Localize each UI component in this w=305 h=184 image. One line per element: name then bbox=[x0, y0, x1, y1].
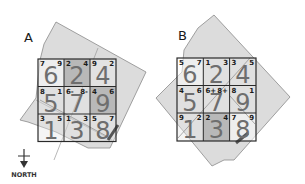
north-compass: NORTH bbox=[11, 149, 37, 179]
north-arrow-icon bbox=[18, 149, 30, 168]
svg-text:2: 2 bbox=[69, 62, 84, 90]
panel-b-label: B bbox=[178, 28, 187, 43]
panel-b: B 5 7 6 bbox=[156, 15, 290, 166]
north-label: NORTH bbox=[11, 171, 37, 179]
svg-text:2: 2 bbox=[209, 61, 224, 89]
panel-a-label: A bbox=[24, 30, 33, 45]
svg-text:5: 5 bbox=[182, 89, 197, 117]
svg-text:7: 7 bbox=[69, 90, 84, 118]
svg-text:7: 7 bbox=[209, 89, 224, 117]
svg-text:5: 5 bbox=[43, 90, 58, 118]
svg-text:3: 3 bbox=[69, 117, 84, 145]
svg-text:4: 4 bbox=[95, 62, 110, 90]
svg-text:9: 9 bbox=[95, 90, 110, 118]
svg-text:8: 8 bbox=[235, 116, 250, 144]
diagram-canvas: A 7 9 bbox=[0, 0, 305, 184]
svg-text:6: 6 bbox=[43, 62, 58, 90]
svg-text:6: 6 bbox=[182, 61, 197, 89]
svg-text:1: 1 bbox=[182, 116, 197, 144]
svg-text:8: 8 bbox=[95, 117, 110, 145]
svg-text:1: 1 bbox=[43, 117, 58, 145]
svg-text:3: 3 bbox=[209, 116, 224, 144]
svg-text:4: 4 bbox=[235, 61, 250, 89]
svg-text:9: 9 bbox=[235, 89, 250, 117]
panel-a: A 7 9 bbox=[20, 22, 146, 160]
